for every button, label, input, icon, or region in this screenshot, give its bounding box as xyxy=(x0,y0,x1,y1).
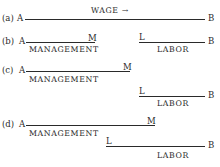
labor-label: LABOR xyxy=(157,151,189,161)
m-marker: M xyxy=(147,116,156,126)
labor-line xyxy=(139,96,205,97)
wage-line xyxy=(25,19,205,20)
management-line xyxy=(26,125,155,126)
l-marker: L xyxy=(106,136,112,146)
panel-a-label: (a) xyxy=(2,13,14,23)
l-marker: L xyxy=(139,86,145,96)
point-a: A xyxy=(19,65,25,75)
wage-caption: WAGE → xyxy=(91,6,129,16)
m-marker: M xyxy=(123,62,132,72)
management-label: MANAGEMENT xyxy=(29,75,99,85)
point-a: A xyxy=(19,119,25,129)
point-a: A xyxy=(17,13,23,23)
management-label: MANAGEMENT xyxy=(29,45,99,55)
panel-b-label: (b) xyxy=(2,36,14,46)
labor-label: LABOR xyxy=(157,45,189,55)
management-label: MANAGEMENT xyxy=(29,129,99,139)
panel-d-label: (d) xyxy=(2,119,14,129)
m-marker: M xyxy=(88,33,97,43)
management-line xyxy=(26,42,95,43)
labor-line xyxy=(106,146,205,147)
point-b: B xyxy=(208,13,214,23)
point-b: B xyxy=(208,90,214,100)
panel-c-label: (c) xyxy=(2,65,13,75)
labor-line xyxy=(139,42,205,43)
l-marker: L xyxy=(139,32,145,42)
point-b: B xyxy=(208,140,214,150)
point-a: A xyxy=(19,36,25,46)
labor-label: LABOR xyxy=(157,99,189,109)
point-b: B xyxy=(208,36,214,46)
management-line xyxy=(26,71,130,72)
